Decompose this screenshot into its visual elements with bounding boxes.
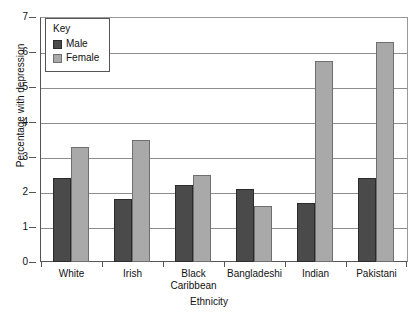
- legend-label-male: Male: [66, 39, 88, 49]
- bar-indian-male[interactable]: [297, 203, 315, 263]
- y-tick-label: 0: [22, 257, 28, 267]
- y-tick-label: 2: [22, 187, 28, 197]
- x-label-white: White: [41, 268, 102, 280]
- legend-title: Key: [53, 23, 109, 35]
- legend-label-female: Female: [66, 53, 99, 63]
- bar-group-indian: [285, 17, 346, 262]
- x-label-irish: Irish: [102, 268, 163, 280]
- y-tick-mark: [29, 17, 36, 18]
- x-tick-mark: [285, 262, 286, 267]
- y-tick-mark: [29, 122, 36, 123]
- x-label-bangladeshi: Bangladeshi: [224, 268, 285, 280]
- x-tick-mark: [406, 262, 407, 267]
- bar-black-caribbean-male[interactable]: [175, 185, 193, 262]
- legend-item-female[interactable]: Female: [53, 51, 109, 65]
- bar-irish-female[interactable]: [132, 140, 150, 263]
- y-tick-mark: [29, 87, 36, 88]
- x-tick-mark: [224, 262, 225, 267]
- y-axis-title: Percentage with depression: [15, 26, 26, 186]
- y-tick-mark: [29, 52, 36, 53]
- legend-swatch-female-icon: [53, 54, 62, 63]
- bar-group-irish: [102, 17, 163, 262]
- bar-group-bangladeshi: [224, 17, 285, 262]
- x-label-black-caribbean: Black Caribbean: [163, 268, 224, 292]
- bar-white-male[interactable]: [53, 178, 71, 262]
- y-tick-mark: [29, 262, 36, 263]
- bar-indian-female[interactable]: [315, 61, 333, 262]
- legend: Key Male Female: [45, 18, 110, 72]
- bar-irish-male[interactable]: [114, 199, 132, 262]
- bar-black-caribbean-female[interactable]: [193, 175, 211, 263]
- bar-pakistani-male[interactable]: [358, 178, 376, 262]
- bar-pakistani-female[interactable]: [376, 42, 394, 263]
- x-label-pakistani: Pakistani: [346, 268, 407, 280]
- x-axis-title: Ethnicity: [0, 296, 418, 307]
- legend-swatch-male-icon: [53, 40, 62, 49]
- x-tick-mark: [102, 262, 103, 267]
- y-tick-mark: [29, 157, 36, 158]
- x-tick-mark: [163, 262, 164, 267]
- bar-bangladeshi-female[interactable]: [254, 206, 272, 262]
- x-axis-labels: White Irish Black Caribbean Bangladeshi …: [41, 268, 407, 298]
- y-tick-mark: [29, 192, 36, 193]
- x-tick-mark: [41, 262, 42, 267]
- bar-group-pakistani: [346, 17, 407, 262]
- y-tick-mark: [29, 227, 36, 228]
- y-tick-label: 7: [22, 12, 28, 22]
- y-tick-label: 1: [22, 222, 28, 232]
- legend-item-male[interactable]: Male: [53, 37, 109, 51]
- bar-bangladeshi-male[interactable]: [236, 189, 254, 263]
- bar-group-black-caribbean: [163, 17, 224, 262]
- x-tick-mark: [346, 262, 347, 267]
- x-label-indian: Indian: [285, 268, 346, 280]
- bar-chart: 7 6 5 4 3 2 1 0 Percentage with depressi…: [0, 0, 418, 314]
- bar-white-female[interactable]: [71, 147, 89, 263]
